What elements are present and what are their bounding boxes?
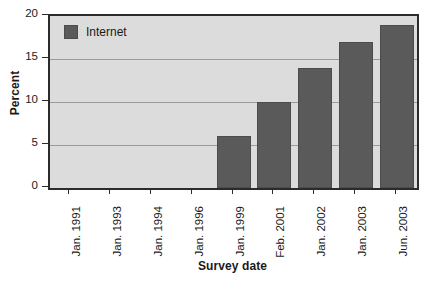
bar-feb-2001	[257, 102, 291, 188]
y-axis-ticks: 05101520	[0, 0, 48, 200]
legend-label-internet: Internet	[86, 26, 127, 38]
bar-jan-2003	[339, 42, 373, 188]
x-tick-mark	[395, 188, 396, 194]
plot-inner	[50, 16, 417, 188]
x-tick-mark	[191, 188, 192, 194]
x-tick-mark	[232, 188, 233, 194]
y-tick-label: 10	[25, 94, 38, 106]
x-tick-mark	[272, 188, 273, 194]
x-tick-mark	[109, 188, 110, 194]
chart-figure: Percent 05101520 Internet Jan. 1991Jan. …	[0, 0, 435, 285]
x-tick-mark	[68, 188, 69, 194]
legend-swatch-internet	[64, 25, 78, 39]
x-tick-mark	[313, 188, 314, 194]
x-axis-title: Survey date	[48, 259, 417, 273]
x-tick-mark	[150, 188, 151, 194]
bar-jan-1999	[217, 136, 251, 188]
y-tick-label: 20	[25, 8, 38, 20]
chart-legend: Internet	[64, 25, 127, 39]
plot-area: Internet	[48, 14, 419, 190]
bar-jun-2003	[380, 25, 414, 188]
bar-jan-2002	[298, 68, 332, 188]
y-tick-label: 5	[32, 137, 38, 149]
x-axis-ticks: Jan. 1991Jan. 1993Jan. 1994Jan. 1996Jan.…	[0, 188, 435, 258]
y-tick-label: 15	[25, 51, 38, 63]
x-tick-mark	[354, 188, 355, 194]
